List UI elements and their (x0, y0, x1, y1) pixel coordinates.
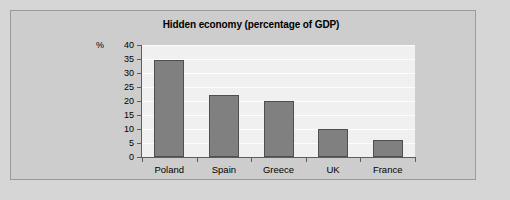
y-axis-tick-label: 20 (104, 97, 134, 106)
x-axis-label-poland: Poland (142, 164, 197, 175)
y-axis-tick (137, 73, 142, 74)
x-axis-label-spain: Spain (197, 164, 252, 175)
y-axis-tick-label: 40 (104, 41, 134, 50)
bar-uk (318, 129, 348, 157)
y-axis-tick (137, 59, 142, 60)
x-axis-tick (251, 158, 252, 162)
y-axis-tick (137, 45, 142, 46)
y-axis-tick (137, 101, 142, 102)
y-axis-tick-label: 25 (104, 83, 134, 92)
y-axis-tick (137, 115, 142, 116)
y-axis-tick-label: 5 (104, 139, 134, 148)
bar-spain (209, 95, 239, 157)
x-axis-tick (415, 158, 416, 162)
bar-poland (154, 60, 184, 157)
y-axis-tick (137, 129, 142, 130)
bar-greece (264, 101, 294, 157)
bar-france (373, 140, 403, 157)
y-axis-tick-label: 15 (104, 111, 134, 120)
x-axis-tick (360, 158, 361, 162)
gridline (142, 45, 415, 46)
chart-panel: Hidden economy (percentage of GDP) % 403… (10, 10, 476, 180)
bar-chart-figure: Hidden economy (percentage of GDP) % 403… (96, 19, 406, 174)
x-axis-label-uk: UK (306, 164, 361, 175)
y-axis-tick-label: 30 (104, 69, 134, 78)
y-axis-tick (137, 87, 142, 88)
x-axis-label-greece: Greece (251, 164, 306, 175)
y-axis-tick-label: 10 (104, 125, 134, 134)
x-axis-line (141, 157, 416, 158)
x-axis-tick (306, 158, 307, 162)
y-axis-tick (137, 143, 142, 144)
y-axis-tick-label: 35 (104, 55, 134, 64)
y-axis-tick-label: 0 (104, 153, 134, 162)
x-axis-label-france: France (360, 164, 415, 175)
chart-title: Hidden economy (percentage of GDP) (96, 19, 406, 30)
x-axis-tick (197, 158, 198, 162)
y-axis-unit-label: % (96, 41, 104, 50)
x-axis-tick (142, 158, 143, 162)
